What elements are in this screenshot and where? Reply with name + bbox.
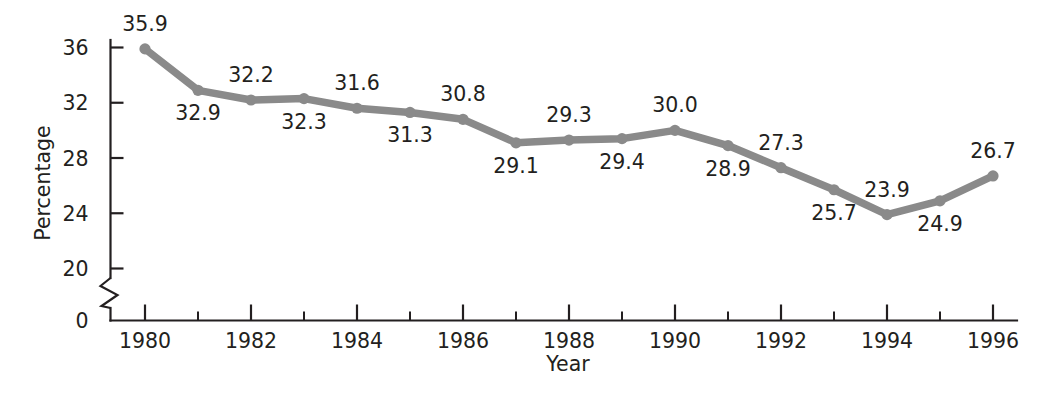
data-point-label: 29.1 [493,154,539,178]
x-axis-tick-label: 1992 [755,329,807,353]
y-axis-title: Percentage [31,125,55,240]
data-point-marker [987,170,998,181]
data-point-marker [139,43,150,54]
y-axis-tick-label: 32 [62,91,88,115]
data-point-label: 32.2 [228,63,274,87]
data-point-label: 26.7 [970,139,1016,163]
data-point-label: 24.9 [917,212,963,236]
data-point-marker [351,103,362,114]
chart-container: 36322824200 1980198219841986198819901992… [0,0,1061,401]
data-point-marker [245,94,256,105]
data-point-marker [404,107,415,118]
data-point-label: 35.9 [122,12,168,36]
x-axis-tick-label: 1980 [119,329,171,353]
y-axis-tick-label: 0 [75,309,88,333]
data-point-label: 25.7 [811,201,857,225]
data-point-label: 32.3 [281,110,327,134]
data-point-label: 28.9 [705,157,751,181]
x-axis-title: Year [545,352,590,376]
data-point-marker [457,114,468,125]
data-point-label: 30.0 [652,93,698,117]
data-point-marker [775,162,786,173]
data-point-marker [881,209,892,220]
data-point-marker [298,93,309,104]
data-point-label: 32.9 [175,101,221,125]
data-point-label: 27.3 [758,131,804,155]
data-point-label: 29.3 [546,103,592,127]
data-point-marker [722,140,733,151]
line-chart: 36322824200 1980198219841986198819901992… [0,0,1061,401]
data-point-label: 29.4 [599,150,645,174]
data-point-label: 31.6 [334,71,380,95]
data-point-marker [669,125,680,136]
data-point-label: 23.9 [864,178,910,202]
y-axis-tick-label: 28 [62,147,88,171]
data-point-marker [563,134,574,145]
x-axis-tick-labels: 198019821984198619881990199219941996 [119,329,1019,353]
x-axis-tick-label: 1982 [225,329,277,353]
y-axis-tick-label: 20 [62,257,88,281]
data-point-label: 31.3 [387,123,433,147]
data-point-marker [192,85,203,96]
x-axis-tick-label: 1990 [649,329,701,353]
data-point-label: 30.8 [440,82,486,106]
x-axis-tick-label: 1984 [331,329,383,353]
data-point-marker [616,133,627,144]
data-point-marker [510,137,521,148]
data-point-marker [828,184,839,195]
x-axis-tick-label: 1996 [967,329,1019,353]
y-axis-tick-label: 36 [62,36,88,60]
data-point-marker [934,195,945,206]
y-axis-tick-label: 24 [62,202,88,226]
x-axis-tick-label: 1986 [437,329,489,353]
x-axis-tick-label: 1994 [861,329,913,353]
x-axis-tick-label: 1988 [543,329,595,353]
